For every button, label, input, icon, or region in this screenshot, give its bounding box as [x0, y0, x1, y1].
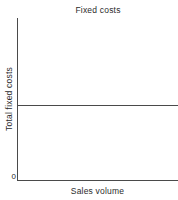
- fixed-costs-chart: Fixed costs Total fixed costs 0 Sales vo…: [0, 0, 178, 200]
- x-axis-line: [17, 180, 178, 181]
- y-axis-tick-label-0: 0: [6, 172, 16, 181]
- chart-title: Fixed costs: [0, 5, 178, 15]
- x-axis-label: Sales volume: [17, 186, 178, 196]
- y-axis-label: Total fixed costs: [4, 51, 14, 147]
- y-axis-line: [17, 18, 18, 181]
- fixed-costs-series-line: [17, 105, 178, 106]
